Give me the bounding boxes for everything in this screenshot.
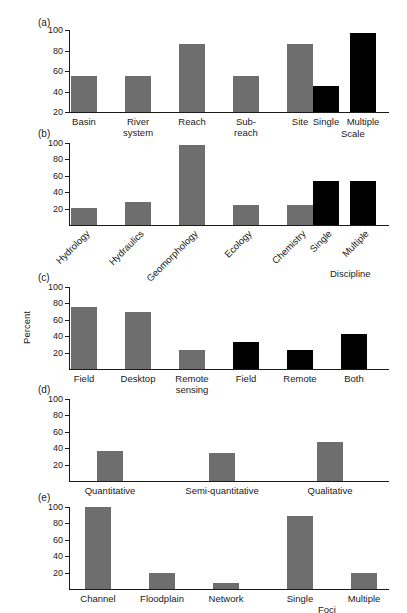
y-axis-tick-label: 20 <box>53 568 63 577</box>
x-axis-title: Foci <box>318 604 336 613</box>
y-axis-tick-label: 100 <box>48 139 63 148</box>
y-axis-tick-label: 100 <box>48 395 63 404</box>
y-axis-tick-label: 40 <box>53 444 63 453</box>
y-axis-tick-label: 60 <box>53 315 63 324</box>
y-axis-tick <box>65 192 69 193</box>
y-axis-tick-label: 40 <box>53 87 63 96</box>
y-axis-tick-label: 100 <box>48 503 63 512</box>
y-axis-tick-label: 20 <box>53 460 63 469</box>
y-axis-line <box>69 399 70 481</box>
y-axis-title: Percent <box>21 298 32 358</box>
bar <box>125 202 151 225</box>
bar <box>317 442 343 481</box>
y-axis-tick-label: 60 <box>53 535 63 544</box>
y-axis-tick-label: 40 <box>53 332 63 341</box>
x-axis-line <box>69 112 389 113</box>
x-axis-tick-label: Quantitative <box>66 485 154 496</box>
y-axis-tick <box>65 556 69 557</box>
plot-area-a: 20406080100 <box>69 30 389 112</box>
y-axis-tick <box>65 303 69 304</box>
y-axis-tick-label: 20 <box>53 348 63 357</box>
y-axis-tick <box>65 143 69 144</box>
x-axis-title: Scale <box>341 128 365 139</box>
x-axis-title: Discipline <box>330 268 371 279</box>
bar <box>125 312 151 369</box>
y-axis-tick-label: 20 <box>53 204 63 213</box>
bar <box>179 44 205 112</box>
y-axis-tick <box>65 523 69 524</box>
y-axis-line <box>69 507 70 589</box>
bar <box>97 451 123 481</box>
y-axis-tick-label: 60 <box>53 427 63 436</box>
y-axis-tick-label: 100 <box>48 283 63 292</box>
y-axis-tick-label: 80 <box>53 411 63 420</box>
y-axis-tick <box>65 320 69 321</box>
y-axis-tick <box>65 112 69 113</box>
y-axis-tick-label: 40 <box>53 188 63 197</box>
plot-area-c: 20406080100 <box>69 287 389 369</box>
y-axis-tick <box>65 399 69 400</box>
bar <box>341 334 367 369</box>
x-axis-tick-label: Qualitative <box>286 485 374 496</box>
plot-area-d: 20406080100 <box>69 399 389 481</box>
y-axis-tick-label: 40 <box>53 552 63 561</box>
y-axis-tick <box>65 507 69 508</box>
bar <box>233 205 259 225</box>
y-axis-tick <box>65 415 69 416</box>
bar <box>71 76 97 112</box>
bar <box>149 573 175 589</box>
x-axis-line <box>69 589 389 590</box>
bar <box>233 342 259 369</box>
y-axis-tick-label: 80 <box>53 155 63 164</box>
y-axis-tick <box>65 30 69 31</box>
y-axis-tick <box>65 71 69 72</box>
bar <box>313 86 339 112</box>
y-axis-tick-label: 80 <box>53 299 63 308</box>
bar <box>287 350 313 369</box>
y-axis-tick-label: 80 <box>53 46 63 55</box>
y-axis-line <box>69 30 70 112</box>
y-axis-tick-label: 100 <box>48 26 63 35</box>
y-axis-tick <box>65 573 69 574</box>
x-axis-tick-label: Both <box>310 373 398 384</box>
y-axis-tick <box>65 353 69 354</box>
bar <box>209 453 235 481</box>
bar <box>350 33 376 112</box>
bar <box>85 507 111 589</box>
bar <box>350 181 376 225</box>
y-axis-tick <box>65 92 69 93</box>
y-axis-tick-label: 60 <box>53 67 63 76</box>
bar <box>351 573 377 589</box>
plot-area-b: 20406080100 <box>69 143 389 225</box>
bar <box>71 208 97 225</box>
y-axis-tick <box>65 159 69 160</box>
bar <box>71 307 97 369</box>
x-axis-line <box>69 369 389 370</box>
x-axis-line <box>69 225 389 226</box>
bar <box>179 145 205 225</box>
bar <box>233 76 259 112</box>
bar <box>313 181 339 225</box>
y-axis-tick-label: 60 <box>53 171 63 180</box>
y-axis-line <box>69 143 70 225</box>
y-axis-tick <box>65 336 69 337</box>
y-axis-tick <box>65 176 69 177</box>
bar <box>179 350 205 369</box>
x-axis-tick-label: Multiple <box>320 593 407 604</box>
y-axis-tick <box>65 51 69 52</box>
y-axis-tick <box>65 465 69 466</box>
x-axis-line <box>69 481 389 482</box>
bar <box>287 516 313 589</box>
bar <box>125 76 151 112</box>
y-axis-tick <box>65 448 69 449</box>
y-axis-tick <box>65 287 69 288</box>
bar <box>287 205 313 225</box>
plot-area-e: 20406080100 <box>69 507 389 589</box>
x-axis-tick-label: Semi-quantitative <box>178 485 266 496</box>
y-axis-tick <box>65 540 69 541</box>
bar <box>287 44 313 112</box>
figure-multi-panel-bar-charts: (a)20406080100BasinRiver systemReachSub-… <box>0 0 407 613</box>
y-axis-tick <box>65 209 69 210</box>
y-axis-tick <box>65 432 69 433</box>
x-axis-tick-label: Multiple <box>319 116 407 127</box>
